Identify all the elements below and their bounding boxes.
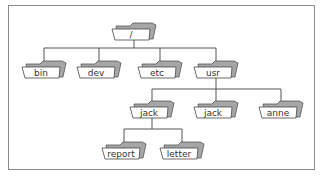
folder-jack2[interactable]: jack [194,101,238,118]
folder-anne[interactable]: anne [259,101,303,118]
folder-bin[interactable]: bin [22,61,66,78]
folder-label: bin [34,68,48,78]
folder-letter[interactable]: letter [160,142,204,159]
folder-label: usr [206,68,220,78]
folder-dev[interactable]: dev [77,61,121,78]
folder-etc[interactable]: etc [138,61,182,78]
folder-root[interactable]: / [112,23,156,40]
folder-label: etc [150,68,164,78]
folder-label: letter [167,149,192,159]
connectors [44,36,281,143]
folder-label: dev [88,68,105,78]
directory-tree: /bindevetcusrjackjackannereportletter [0,0,322,177]
folder-report[interactable]: report [102,142,146,159]
folder-label: jack [139,108,159,118]
folder-label: report [107,149,135,159]
folder-label: anne [267,108,290,118]
folder-jack1[interactable]: jack [130,101,174,118]
folder-usr[interactable]: usr [194,61,238,78]
folder-label: jack [203,108,223,118]
